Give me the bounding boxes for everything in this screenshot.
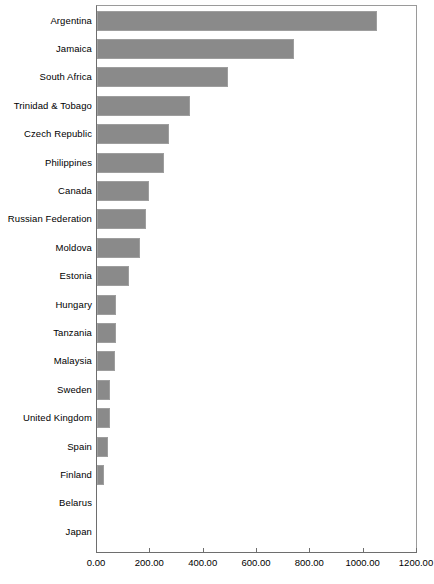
bar-chart: ArgentinaJamaicaSouth AfricaTrinidad & T… <box>0 0 434 584</box>
category-label: Philippines <box>0 158 92 168</box>
bar <box>97 209 146 229</box>
tick-label: 1200.00 <box>399 557 433 568</box>
category-label: Czech Republic <box>0 129 92 139</box>
category-label: Trinidad & Tobago <box>0 101 92 111</box>
category-label: Canada <box>0 186 92 196</box>
bar <box>97 96 190 116</box>
bar <box>97 351 115 371</box>
bar <box>97 238 140 258</box>
category-label: Hungary <box>0 300 92 310</box>
tick-label: 200.00 <box>135 557 164 568</box>
bar <box>97 39 294 59</box>
category-label: Belarus <box>0 498 92 508</box>
bar <box>97 266 129 286</box>
tick-label: 400.00 <box>188 557 217 568</box>
bar <box>97 124 169 144</box>
category-label: Finland <box>0 470 92 480</box>
bars-layer <box>97 5 417 545</box>
bar <box>97 181 149 201</box>
category-label: Russian Federation <box>0 214 92 224</box>
bar <box>97 323 116 343</box>
category-label: Estonia <box>0 271 92 281</box>
category-label: South Africa <box>0 72 92 82</box>
bar <box>97 465 104 485</box>
category-label: Jamaica <box>0 44 92 54</box>
category-label: Sweden <box>0 385 92 395</box>
category-label: Moldova <box>0 243 92 253</box>
bar <box>97 408 110 428</box>
bar <box>97 11 377 31</box>
bar <box>97 380 110 400</box>
category-label: Spain <box>0 442 92 452</box>
tick-label: 600.00 <box>241 557 270 568</box>
category-label: Malaysia <box>0 356 92 366</box>
category-label: United Kingdom <box>0 413 92 423</box>
bar <box>97 437 108 457</box>
tick-label: 800.00 <box>295 557 324 568</box>
category-axis-labels: ArgentinaJamaicaSouth AfricaTrinidad & T… <box>0 5 92 545</box>
category-label: Tanzania <box>0 328 92 338</box>
bar <box>97 153 164 173</box>
bar <box>97 67 228 87</box>
tick-label: 0.00 <box>87 557 106 568</box>
category-label: Japan <box>0 527 92 537</box>
bar <box>97 295 116 315</box>
tick-label: 1000.00 <box>345 557 379 568</box>
category-label: Argentina <box>0 16 92 26</box>
